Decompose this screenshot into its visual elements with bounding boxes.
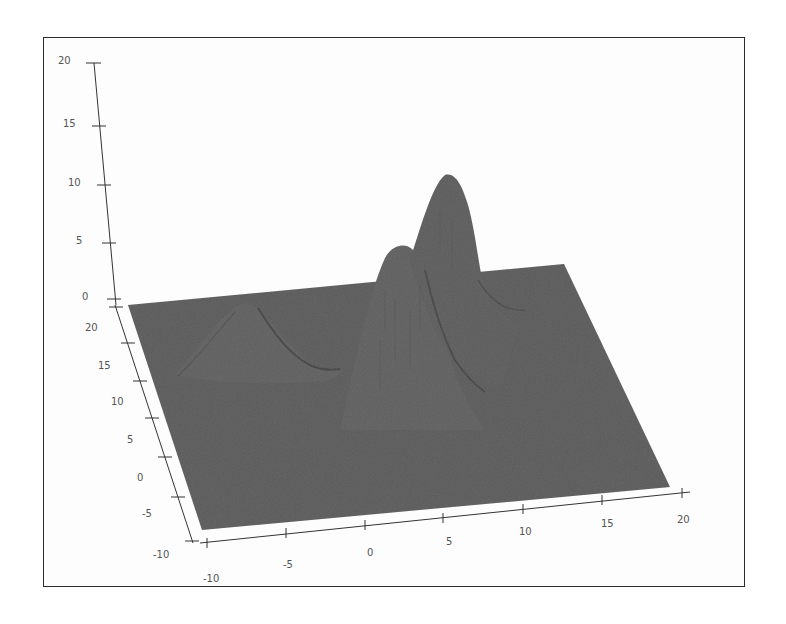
z-tick-5: 5 bbox=[76, 235, 82, 246]
y-tick-0: 0 bbox=[137, 472, 143, 483]
y-tick-5: 5 bbox=[127, 434, 133, 445]
z-tick-labels: 20 15 10 5 0 bbox=[58, 55, 88, 302]
surface bbox=[128, 175, 670, 530]
z-tick-0: 0 bbox=[82, 291, 88, 302]
x-tick-20: 20 bbox=[677, 514, 690, 525]
y-tick-minus-5: -5 bbox=[142, 508, 152, 519]
z-axis bbox=[86, 63, 121, 305]
x-tick-minus-5: -5 bbox=[283, 559, 293, 570]
x-tick-minus-10: -10 bbox=[203, 573, 219, 584]
z-tick-15: 15 bbox=[63, 118, 76, 129]
surface-plot: 20 15 10 5 0 20 15 10 5 0 -5 -10 -10 bbox=[0, 0, 786, 624]
y-tick-20: 20 bbox=[85, 322, 98, 333]
x-tick-0: 0 bbox=[367, 547, 373, 558]
z-tick-10: 10 bbox=[68, 177, 81, 188]
y-tick-15: 15 bbox=[98, 360, 111, 371]
x-tick-labels: -10 -5 0 5 10 15 20 bbox=[203, 514, 690, 584]
x-tick-10: 10 bbox=[519, 526, 532, 537]
x-tick-15: 15 bbox=[601, 518, 614, 529]
y-tick-10: 10 bbox=[111, 396, 124, 407]
z-tick-20: 20 bbox=[58, 55, 71, 66]
y-tick-minus-10: -10 bbox=[153, 549, 169, 560]
x-tick-5: 5 bbox=[446, 536, 452, 547]
